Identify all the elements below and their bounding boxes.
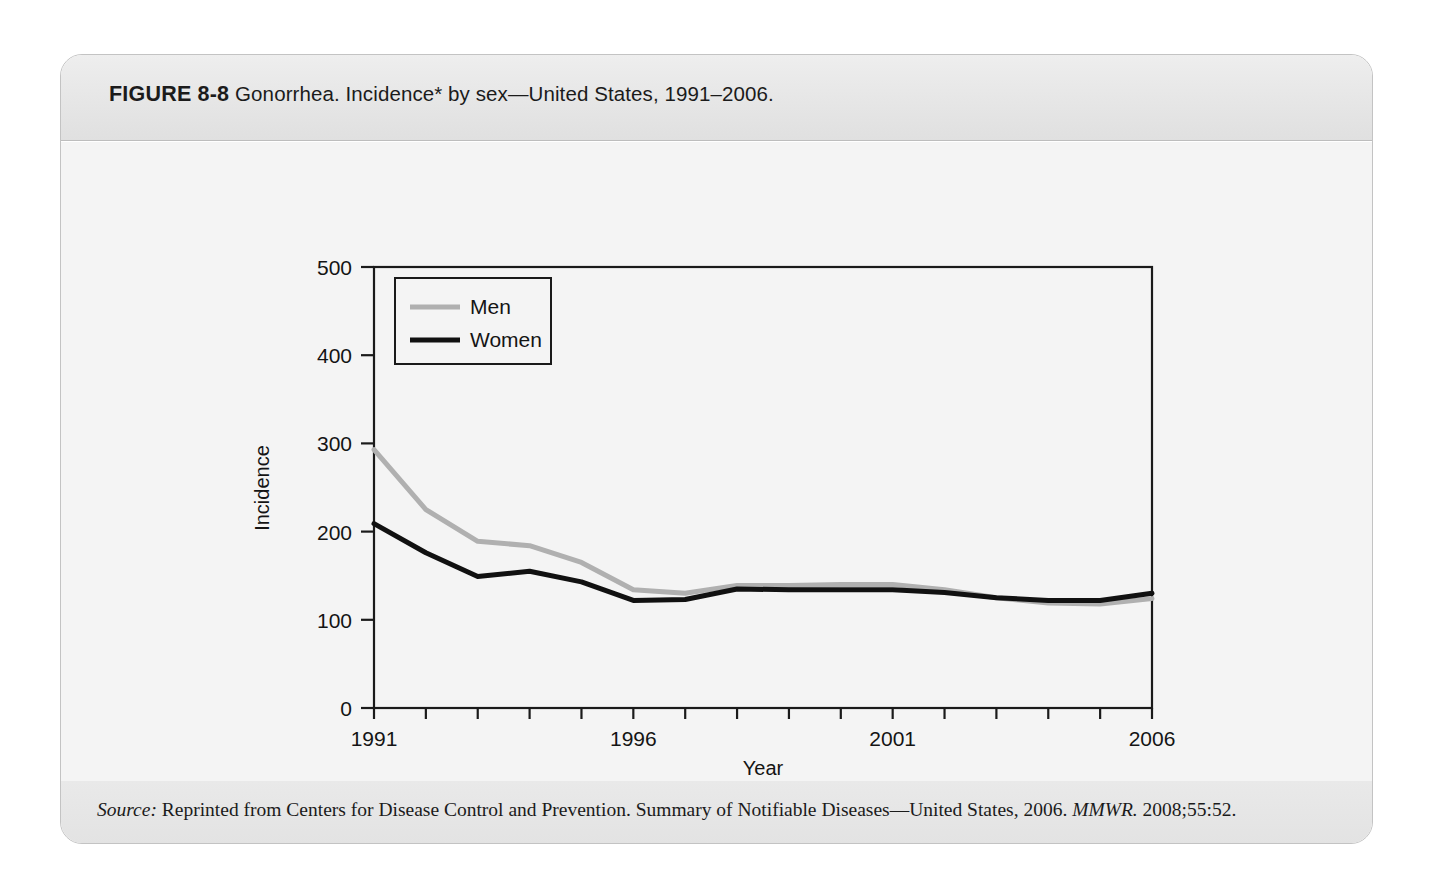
x-tick-label: 2006 <box>1129 727 1176 750</box>
figure-source-band: Source: Reprinted from Centers for Disea… <box>61 781 1372 843</box>
y-axis-title: Incidence <box>251 445 273 531</box>
figure-caption-band: FIGURE 8-8 Gonorrhea. Incidence* by sex—… <box>61 55 1372 141</box>
y-axis-ticks <box>361 267 374 708</box>
series-line-women <box>374 524 1152 601</box>
legend-label-women: Women <box>470 328 542 351</box>
figure-source: Source: Reprinted from Centers for Disea… <box>97 799 1236 821</box>
x-tick-label: 1991 <box>351 727 398 750</box>
figure-panel: FIGURE 8-8 Gonorrhea. Incidence* by sex—… <box>60 54 1373 844</box>
legend-box <box>395 278 551 364</box>
source-label: Source: <box>97 799 157 820</box>
y-tick-label: 500 <box>317 256 352 279</box>
figure-number: FIGURE 8-8 <box>109 82 229 106</box>
figure-caption: FIGURE 8-8 Gonorrhea. Incidence* by sex—… <box>109 82 774 107</box>
source-body: Reprinted from Centers for Disease Contr… <box>157 799 1072 820</box>
x-axis-tick-labels: 1991199620012006 <box>351 727 1176 750</box>
chart-plot-area: 0100200300400500 1991199620012006 Incide… <box>61 142 1372 794</box>
source-journal: MMWR. <box>1072 799 1138 820</box>
legend-label-men: Men <box>470 295 511 318</box>
x-axis-title: Year <box>743 757 784 779</box>
y-tick-label: 200 <box>317 521 352 544</box>
y-tick-label: 400 <box>317 344 352 367</box>
x-tick-label: 1996 <box>610 727 657 750</box>
x-axis-ticks <box>374 708 1152 719</box>
figure-caption-text: Gonorrhea. Incidence* by sex—United Stat… <box>235 82 774 105</box>
line-chart: 0100200300400500 1991199620012006 Incide… <box>61 142 1372 793</box>
series-line-men <box>374 450 1152 604</box>
y-tick-label: 100 <box>317 609 352 632</box>
chart-series-group <box>374 450 1152 604</box>
source-citation: 2008;55:52. <box>1138 799 1237 820</box>
y-axis-tick-labels: 0100200300400500 <box>317 256 352 720</box>
y-tick-label: 300 <box>317 432 352 455</box>
chart-legend: Men Women <box>395 278 551 364</box>
y-tick-label: 0 <box>340 697 352 720</box>
x-tick-label: 2001 <box>869 727 916 750</box>
